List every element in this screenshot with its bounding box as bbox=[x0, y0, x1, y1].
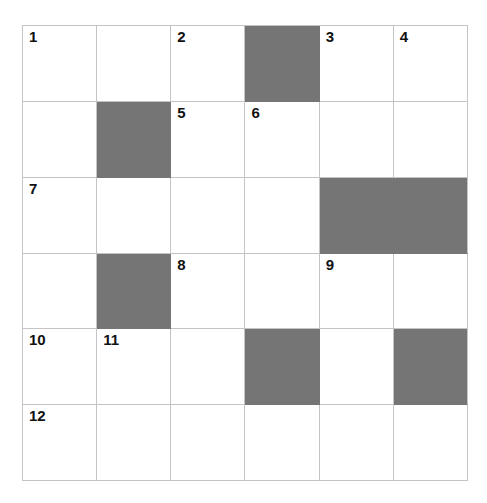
crossword-cell-r1c2[interactable] bbox=[97, 26, 171, 102]
crossword-cell-r2c6[interactable] bbox=[394, 102, 468, 178]
cell-number-2: 2 bbox=[177, 28, 185, 45]
crossword-cell-r6c3[interactable] bbox=[171, 405, 245, 481]
cell-number-9: 9 bbox=[326, 256, 334, 273]
crossword-cell-r5c5[interactable] bbox=[320, 329, 394, 405]
crossword-cell-r5c1[interactable]: 10 bbox=[23, 329, 97, 405]
crossword-cell-r3c1[interactable]: 7 bbox=[23, 178, 97, 254]
crossword-cell-r2c4[interactable]: 6 bbox=[245, 102, 319, 178]
crossword-grid: 123456789101112 bbox=[22, 25, 468, 481]
crossword-cell-r3c2[interactable] bbox=[97, 178, 171, 254]
cell-number-4: 4 bbox=[400, 28, 408, 45]
crossword-cell-r6c5[interactable] bbox=[320, 405, 394, 481]
crossword-cell-r4c3[interactable]: 8 bbox=[171, 254, 245, 330]
cell-number-7: 7 bbox=[29, 180, 37, 197]
cell-number-8: 8 bbox=[177, 256, 185, 273]
crossword-cell-r4c6[interactable] bbox=[394, 254, 468, 330]
crossword-cell-r3c5 bbox=[320, 178, 394, 254]
crossword-cell-r5c2[interactable]: 11 bbox=[97, 329, 171, 405]
cell-number-6: 6 bbox=[251, 104, 259, 121]
crossword-cell-r6c4[interactable] bbox=[245, 405, 319, 481]
cell-number-11: 11 bbox=[103, 331, 119, 348]
crossword-puzzle-root: 123456789101112 bbox=[0, 0, 487, 503]
crossword-cell-r3c3[interactable] bbox=[171, 178, 245, 254]
crossword-cell-r6c1[interactable]: 12 bbox=[23, 405, 97, 481]
crossword-cell-r4c4[interactable] bbox=[245, 254, 319, 330]
cell-number-10: 10 bbox=[29, 331, 46, 348]
crossword-cell-r4c1[interactable] bbox=[23, 254, 97, 330]
crossword-cell-r1c3[interactable]: 2 bbox=[171, 26, 245, 102]
crossword-cell-r6c2[interactable] bbox=[97, 405, 171, 481]
crossword-cell-r1c4 bbox=[245, 26, 319, 102]
crossword-cell-r4c2 bbox=[97, 254, 171, 330]
crossword-cell-r4c5[interactable]: 9 bbox=[320, 254, 394, 330]
crossword-cell-r3c6 bbox=[394, 178, 468, 254]
cell-number-12: 12 bbox=[29, 407, 46, 424]
crossword-cell-r2c1[interactable] bbox=[23, 102, 97, 178]
crossword-cell-r2c3[interactable]: 5 bbox=[171, 102, 245, 178]
crossword-cell-r1c1[interactable]: 1 bbox=[23, 26, 97, 102]
crossword-cell-r2c2 bbox=[97, 102, 171, 178]
crossword-cell-r5c6 bbox=[394, 329, 468, 405]
crossword-cell-r6c6[interactable] bbox=[394, 405, 468, 481]
cell-number-3: 3 bbox=[326, 28, 334, 45]
cell-number-5: 5 bbox=[177, 104, 185, 121]
cell-number-1: 1 bbox=[29, 28, 37, 45]
crossword-cell-r3c4[interactable] bbox=[245, 178, 319, 254]
crossword-cell-r1c5[interactable]: 3 bbox=[320, 26, 394, 102]
crossword-cell-r2c5[interactable] bbox=[320, 102, 394, 178]
crossword-cell-r5c4 bbox=[245, 329, 319, 405]
crossword-cell-r1c6[interactable]: 4 bbox=[394, 26, 468, 102]
crossword-cell-r5c3[interactable] bbox=[171, 329, 245, 405]
